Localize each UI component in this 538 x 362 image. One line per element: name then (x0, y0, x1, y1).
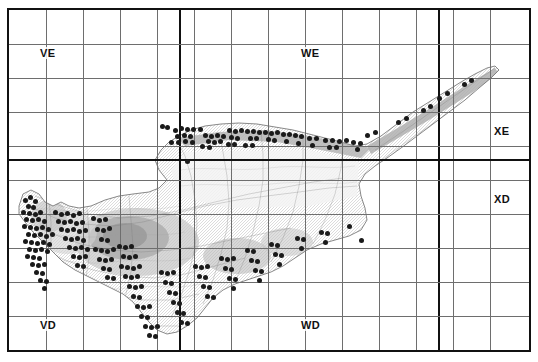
occurrence-dot (245, 248, 250, 253)
occurrence-dot (129, 244, 134, 249)
grid-square-label-xd: XD (493, 193, 511, 205)
occurrence-dot (193, 264, 198, 269)
occurrence-dot (206, 139, 211, 144)
occurrence-dot (32, 233, 37, 238)
occurrence-dot (181, 311, 186, 316)
occurrence-dot (314, 136, 319, 141)
occurrence-dot (121, 254, 126, 259)
occurrence-dot (50, 232, 55, 237)
occurrence-dot (396, 120, 401, 125)
occurrence-dot (127, 284, 132, 289)
occurrence-dot (445, 91, 450, 96)
occurrence-dot (75, 236, 80, 241)
occurrence-dot (65, 211, 70, 216)
occurrence-dot (38, 210, 43, 215)
occurrence-dot (299, 246, 304, 251)
occurrence-dot (30, 262, 35, 267)
occurrence-dot (171, 300, 176, 305)
occurrence-dot (139, 284, 144, 289)
occurrence-dot (117, 244, 122, 249)
occurrence-dot (428, 104, 433, 109)
occurrence-dot (133, 285, 138, 290)
occurrence-dot (111, 276, 116, 281)
occurrence-dot (53, 210, 58, 215)
occurrence-dot (469, 78, 474, 83)
occurrence-dot (169, 281, 174, 286)
occurrence-dot (323, 240, 328, 245)
occurrence-dot (33, 199, 38, 204)
occurrence-dot (26, 232, 31, 237)
occurrence-dot (153, 334, 158, 339)
occurrence-dot (229, 267, 234, 272)
occurrence-dot (95, 227, 100, 232)
map-frame: VEWEXEXDVDWD (7, 8, 531, 352)
occurrence-dot (93, 247, 98, 252)
occurrence-dot (203, 133, 208, 138)
occurrence-dot (105, 275, 110, 280)
occurrence-dot (227, 128, 232, 133)
occurrence-dot (232, 142, 237, 147)
occurrence-dot (197, 274, 202, 279)
occurrence-dot (337, 139, 342, 144)
occurrence-dot (105, 249, 110, 254)
occurrence-dot (351, 140, 356, 145)
occurrence-dot (239, 128, 244, 133)
occurrence-dot (159, 270, 164, 275)
occurrence-dot (185, 321, 190, 326)
distribution-map-figure: VEWEXEXDVDWD (0, 0, 538, 362)
occurrence-dot (143, 324, 148, 329)
grid-square-label-xe: XE (493, 125, 510, 137)
occurrence-dot (71, 213, 76, 218)
occurrence-dot (334, 145, 339, 150)
grid-square-label-ve: VE (39, 47, 56, 59)
occurrence-dot (133, 254, 138, 259)
occurrence-dot (198, 127, 203, 132)
occurrence-dot (71, 227, 76, 232)
occurrence-dot (229, 135, 234, 140)
occurrence-dot (28, 195, 33, 200)
occurrence-dot (182, 133, 187, 138)
occurrence-dot (81, 264, 86, 269)
occurrence-dot (85, 247, 90, 252)
occurrence-dot (248, 136, 253, 141)
occurrence-dot (163, 280, 168, 285)
occurrence-dot (165, 125, 170, 130)
occurrence-dot (145, 315, 150, 320)
occurrence-dot (36, 263, 41, 268)
occurrence-dot (131, 266, 136, 271)
occurrence-dot (462, 82, 467, 87)
occurrence-dot (46, 227, 51, 232)
occurrence-dot (273, 252, 278, 257)
occurrence-dot (296, 141, 301, 146)
occurrence-dot (137, 264, 142, 269)
occurrence-dot (205, 294, 210, 299)
occurrence-dot (212, 140, 217, 145)
occurrence-dot (183, 139, 188, 144)
occurrence-dot (275, 243, 280, 248)
occurrence-dot (235, 136, 240, 141)
occurrence-dot (65, 228, 70, 233)
occurrence-dot (254, 136, 259, 141)
occurrence-dot (101, 228, 106, 233)
occurrence-dot (257, 130, 262, 135)
occurrence-dot (59, 227, 64, 232)
occurrence-dot (26, 204, 31, 209)
occurrence-dot (299, 134, 304, 139)
occurrence-dot (127, 255, 132, 260)
occurrence-dot (293, 133, 298, 138)
occurrence-dot (284, 139, 289, 144)
occurrence-dot (24, 217, 29, 222)
occurrence-dot (160, 124, 165, 129)
occurrence-dot (404, 116, 409, 121)
occurrence-dot (344, 138, 349, 143)
occurrence-dot (209, 134, 214, 139)
occurrence-dot (167, 290, 172, 295)
occurrence-dot (103, 258, 108, 263)
occurrence-dot (231, 286, 236, 291)
occurrence-dot (79, 245, 84, 250)
occurrence-dot (44, 234, 49, 239)
occurrence-dot (226, 142, 231, 147)
occurrence-dot (266, 137, 271, 142)
occurrence-dot (23, 239, 28, 244)
occurrence-dot (218, 139, 223, 144)
